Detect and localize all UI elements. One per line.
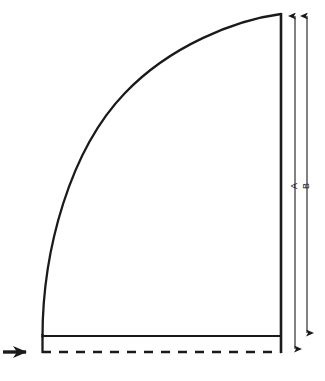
diagram-canvas: A B — [0, 0, 325, 381]
technical-diagram-figure: A B — [0, 0, 325, 381]
dimension-label-a: A — [289, 183, 299, 189]
profile-curve — [43, 14, 282, 337]
dimension-label-b: B — [301, 183, 311, 189]
